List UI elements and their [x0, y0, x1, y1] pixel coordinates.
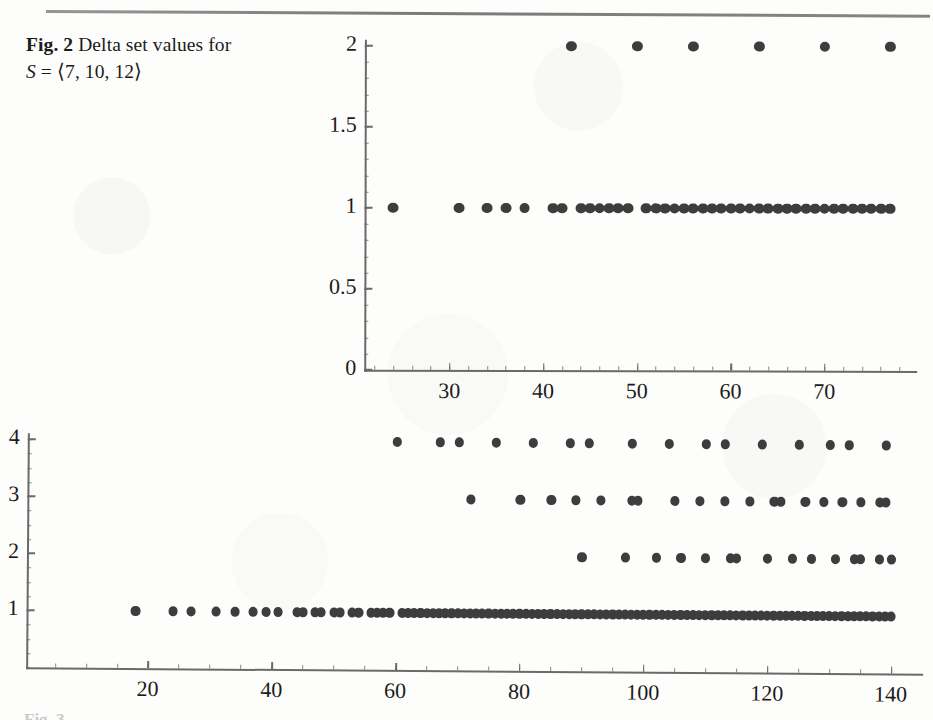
data-point	[763, 554, 772, 563]
data-point	[732, 554, 741, 563]
data-point	[388, 202, 399, 213]
upper-scatter-plot: 304050607000.511.52	[0, 0, 933, 412]
data-point	[249, 607, 258, 616]
upper-plot-data-points	[0, 0, 933, 412]
data-point	[721, 440, 730, 449]
data-point	[831, 554, 840, 563]
data-point	[187, 607, 196, 616]
data-point	[671, 496, 680, 505]
data-point	[335, 608, 344, 617]
data-point	[665, 439, 674, 448]
data-point	[633, 496, 642, 505]
data-point	[577, 553, 586, 562]
data-point	[819, 497, 828, 506]
data-point	[436, 438, 445, 447]
data-point	[676, 553, 685, 562]
data-point	[695, 496, 704, 505]
next-figure-caption-stub: Fig. 3	[24, 711, 65, 720]
data-point	[745, 497, 754, 506]
data-point	[566, 439, 575, 448]
data-point	[454, 438, 463, 447]
data-point	[856, 555, 865, 564]
data-point	[801, 497, 810, 506]
lower-scatter-plot: 204060801001201401234	[0, 415, 933, 712]
data-point	[385, 608, 394, 617]
data-point	[819, 41, 830, 52]
data-point	[795, 440, 804, 449]
data-point	[882, 441, 891, 450]
data-point	[720, 497, 729, 506]
data-point	[131, 606, 140, 615]
data-point	[317, 608, 326, 617]
data-point	[875, 555, 884, 564]
data-point	[788, 554, 797, 563]
data-point	[491, 438, 500, 447]
data-point	[887, 555, 896, 564]
data-point	[500, 203, 511, 214]
data-point	[566, 41, 577, 52]
data-point	[596, 496, 605, 505]
data-point	[392, 437, 401, 446]
data-point	[628, 439, 637, 448]
data-point	[212, 607, 221, 616]
data-point	[844, 441, 853, 450]
data-point	[754, 41, 765, 52]
data-point	[547, 495, 556, 504]
data-point	[557, 203, 568, 214]
data-point	[516, 495, 525, 504]
data-point	[885, 41, 896, 52]
data-point	[701, 554, 710, 563]
data-point	[273, 607, 282, 616]
data-point	[519, 203, 530, 214]
data-point	[826, 440, 835, 449]
data-point	[838, 498, 847, 507]
data-point	[572, 496, 581, 505]
data-point	[298, 608, 307, 617]
data-point	[354, 608, 363, 617]
data-point	[529, 438, 538, 447]
data-point	[887, 612, 896, 621]
data-point	[885, 203, 896, 214]
figure-page: Fig. 2 Delta set values for S = ⟨7, 10, …	[0, 0, 933, 720]
data-point	[261, 607, 270, 616]
lower-plot-data-points	[0, 415, 933, 712]
data-point	[482, 203, 493, 214]
data-point	[758, 440, 767, 449]
data-point	[856, 498, 865, 507]
data-point	[688, 41, 699, 52]
data-point	[881, 498, 890, 507]
data-point	[806, 554, 815, 563]
data-point	[168, 607, 177, 616]
data-point	[466, 495, 475, 504]
data-point	[652, 553, 661, 562]
data-point	[230, 607, 239, 616]
data-point	[702, 440, 711, 449]
data-point	[776, 497, 785, 506]
data-point	[632, 41, 643, 52]
data-point	[622, 203, 633, 214]
data-point	[621, 553, 630, 562]
data-point	[454, 203, 465, 214]
data-point	[584, 439, 593, 448]
